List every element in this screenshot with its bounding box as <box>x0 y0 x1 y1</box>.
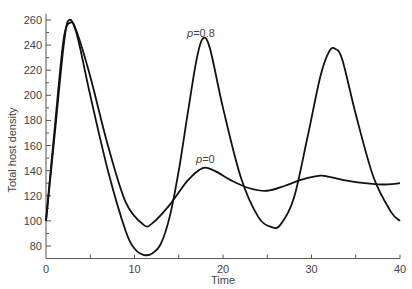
annotation-value: =0.8 <box>193 27 215 39</box>
annotation-p-0: p=0 <box>195 153 215 165</box>
x-tick-label: 20 <box>217 263 229 275</box>
x-tick-label: 0 <box>43 263 49 275</box>
y-tick-label: 100 <box>24 215 42 227</box>
y-axis-label: Total host density <box>6 107 18 192</box>
x-axis-label: Time <box>211 274 235 286</box>
y-tick-label: 240 <box>24 39 42 51</box>
series-line-p-0-8 <box>46 20 400 256</box>
y-tick-label: 160 <box>24 140 42 152</box>
y-tick-label: 140 <box>24 165 42 177</box>
y-tick-label: 120 <box>24 190 42 202</box>
series-line-p-0 <box>46 22 400 226</box>
annotation-value: =0 <box>202 153 215 165</box>
y-tick-label: 180 <box>24 114 42 126</box>
annotation-p-symbol: p <box>186 27 193 39</box>
chart: 01020304080100120140160180200220240260 T… <box>0 0 412 289</box>
x-tick-label: 40 <box>394 263 406 275</box>
y-tick-label: 80 <box>30 240 42 252</box>
annotation-p-symbol: p <box>195 153 202 165</box>
curves <box>46 20 400 256</box>
y-tick-label: 200 <box>24 89 42 101</box>
y-tick-label: 260 <box>24 14 42 26</box>
x-tick-label: 30 <box>305 263 317 275</box>
annotation-p-0.8: p=0.8 <box>186 27 215 39</box>
x-tick-label: 10 <box>128 263 140 275</box>
y-tick-label: 220 <box>24 64 42 76</box>
